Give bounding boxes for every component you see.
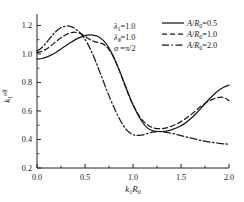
y-tick-label: 0.8	[22, 78, 32, 87]
y-tick-label: 0.6	[22, 107, 32, 116]
x-axis-title: k1R0	[125, 184, 141, 195]
legend: A/R0=0.5A/R0=1.0A/R0=2.0	[162, 19, 217, 51]
y-tick-label: 0.2	[22, 164, 32, 173]
line-chart: 0.20.40.60.81.01.2 0.00.51.01.52.0 k1R0 …	[0, 0, 244, 202]
parameter-annotations: λ1=1.0 λⅡ=1.0 α =π/2	[113, 22, 135, 53]
annotation-lambda2: λⅡ=1.0	[113, 33, 135, 43]
x-axis-title-tail-sub: 0	[138, 189, 141, 195]
svg-text:k1R0: k1R0	[125, 184, 141, 195]
x-tick-label: 1.0	[128, 173, 138, 182]
x-axis-tick-labels: 0.00.51.01.52.0	[32, 173, 234, 182]
svg-text:k1eff: k1eff	[2, 89, 13, 103]
figure-container: 0.20.40.60.81.01.2 0.00.51.01.52.0 k1R0 …	[0, 0, 244, 202]
x-tick-label: 0.0	[32, 173, 42, 182]
legend-label-3: A/R0=2.0	[186, 41, 217, 51]
y-tick-label: 1.0	[22, 50, 32, 59]
x-tick-label: 0.5	[80, 173, 90, 182]
y-axis-title-sup: eff	[2, 89, 8, 96]
y-tick-label: 0.4	[22, 135, 32, 144]
y-axis-ticks	[37, 25, 41, 168]
legend-label-2: A/R0=1.0	[186, 30, 217, 40]
y-axis-title: k1eff	[2, 89, 13, 103]
annotation-alpha: α =π/2	[114, 44, 135, 53]
y-tick-label: 1.2	[22, 21, 32, 30]
x-tick-label: 2.0	[224, 173, 234, 182]
legend-label-1: A/R0=0.5	[186, 19, 217, 29]
annotation-lambda1: λ1=1.0	[113, 22, 135, 32]
x-tick-label: 1.5	[176, 173, 186, 182]
x-axis-ticks	[37, 164, 229, 168]
y-axis-tick-labels: 0.20.40.60.81.01.2	[22, 21, 32, 173]
